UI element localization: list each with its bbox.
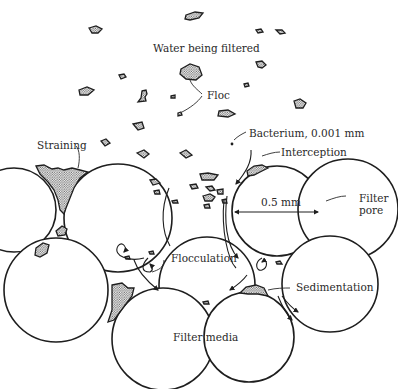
- floc: [206, 186, 215, 191]
- floc: [180, 64, 202, 80]
- floc: [101, 139, 110, 146]
- sedimentation-label: Sedimentation: [296, 281, 374, 293]
- floc: [190, 184, 198, 189]
- floc: [138, 90, 147, 102]
- floc: [218, 110, 235, 117]
- grain-lower-left: [4, 238, 108, 342]
- floc: [79, 87, 94, 95]
- floc: [203, 194, 215, 201]
- filtration-diagram: Water being filtered Floc Bacterium, 0.0…: [0, 0, 398, 389]
- floc-leader-lower: [182, 96, 202, 112]
- flow-line: [257, 258, 267, 270]
- floc: [180, 150, 192, 158]
- floc: [203, 301, 209, 304]
- floc-label: Floc: [207, 89, 230, 101]
- floc: [133, 122, 144, 130]
- floc: [185, 12, 203, 20]
- floc: [178, 112, 182, 116]
- floc: [256, 61, 266, 68]
- floc-leader-upper: [190, 80, 202, 94]
- floc: [154, 190, 160, 194]
- filter-media-label: Filter media: [173, 331, 238, 343]
- floc: [217, 189, 223, 194]
- flocculation-label: Flocculation: [171, 252, 237, 264]
- bacterium-dot: [231, 143, 234, 146]
- floc: [149, 251, 154, 254]
- filter-pore-label-line1: Filter: [359, 192, 388, 204]
- floc: [244, 83, 249, 87]
- bacterium-leader: [234, 132, 246, 140]
- floc: [276, 30, 285, 34]
- bacterium-label: Bacterium, 0.001 mm: [249, 127, 364, 139]
- straining-label: Straining: [37, 139, 87, 151]
- floc: [256, 29, 263, 33]
- floc: [172, 200, 178, 203]
- floc: [171, 95, 175, 98]
- interception-label: Interception: [281, 146, 347, 158]
- floc-deposit-left-gap: [56, 226, 67, 236]
- floc: [276, 261, 282, 264]
- water-being-filtered-label: Water being filtered: [153, 42, 260, 54]
- floc: [294, 99, 306, 108]
- floc: [137, 150, 149, 158]
- floc: [200, 173, 218, 180]
- floc: [204, 204, 210, 208]
- interception-leader: [262, 152, 280, 156]
- floc: [89, 26, 102, 33]
- grain-size-label: 0.5 mm: [261, 196, 301, 208]
- filter-pore-label-line2: pore: [359, 204, 383, 216]
- floc: [119, 74, 126, 79]
